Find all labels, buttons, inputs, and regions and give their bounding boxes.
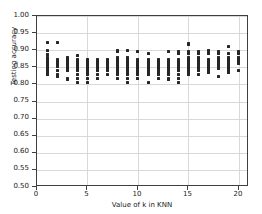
data-point [187, 73, 190, 76]
data-point [147, 81, 150, 84]
data-point [76, 81, 79, 84]
data-point [177, 81, 180, 84]
gridline-horizontal [37, 119, 247, 120]
x-tick-label: 20 [233, 191, 242, 198]
data-point [147, 52, 150, 55]
gridline-horizontal [37, 102, 247, 103]
y-tick-mark [32, 169, 36, 170]
y-tick-label: 0.60 [13, 148, 29, 155]
data-point [136, 50, 139, 53]
data-point [227, 71, 230, 74]
y-tick-mark [32, 83, 36, 84]
data-point [46, 73, 49, 76]
data-point [237, 52, 240, 55]
data-point [197, 52, 200, 55]
gridline-horizontal [37, 33, 247, 34]
data-point [86, 77, 89, 80]
plot-area [36, 15, 248, 186]
data-point [96, 73, 99, 76]
y-tick-mark [32, 15, 36, 16]
gridline-vertical [87, 16, 88, 185]
y-tick-label: 0.50 [13, 183, 29, 190]
data-point [76, 54, 79, 57]
data-point [96, 69, 99, 72]
data-point [56, 69, 59, 72]
y-tick-mark [32, 152, 36, 153]
y-axis-label: Testing accuracy [10, 6, 18, 106]
data-point [177, 73, 180, 76]
data-point [157, 77, 160, 80]
data-point [147, 73, 150, 76]
y-tick-mark [32, 118, 36, 119]
data-point [217, 67, 220, 70]
y-tick-label: 0.55 [13, 165, 29, 172]
data-point [187, 43, 190, 46]
x-tick-label: 15 [183, 191, 192, 198]
data-point [167, 78, 170, 81]
data-point [217, 75, 220, 78]
gridline-horizontal [37, 170, 247, 171]
data-point [116, 73, 119, 76]
data-point [76, 73, 79, 76]
data-point [227, 45, 230, 48]
data-point [66, 69, 69, 72]
data-point [157, 73, 160, 76]
data-point [46, 41, 49, 44]
gridline-vertical [239, 16, 240, 185]
data-point [197, 69, 200, 72]
x-axis-label: Value of k in KNN [36, 201, 248, 209]
data-point [46, 49, 49, 52]
data-point [126, 49, 129, 52]
gridline-horizontal [37, 136, 247, 137]
data-point [86, 73, 89, 76]
data-point [207, 71, 210, 74]
data-point [177, 77, 180, 80]
x-tick-label: 5 [84, 191, 88, 198]
x-tick-label: 0 [34, 191, 38, 198]
data-point [177, 69, 180, 72]
data-point [56, 75, 59, 78]
data-point [167, 73, 170, 76]
scatter-plot-figure: 0.500.550.600.650.700.750.800.850.900.95… [0, 0, 262, 214]
data-point [56, 65, 59, 68]
gridline-horizontal [37, 84, 247, 85]
data-point [56, 41, 59, 44]
data-point [227, 52, 230, 55]
y-tick-mark [32, 66, 36, 67]
data-point [126, 81, 129, 84]
gridline-vertical [138, 16, 139, 185]
data-point [136, 73, 139, 76]
data-point [86, 81, 89, 84]
data-point [96, 77, 99, 80]
data-point [167, 50, 170, 53]
data-point [126, 73, 129, 76]
y-tick-label: 0.65 [13, 131, 29, 138]
data-point [207, 52, 210, 55]
data-point [237, 69, 240, 72]
data-point [237, 62, 240, 65]
y-tick-mark [32, 49, 36, 50]
data-point [106, 73, 109, 76]
data-point [76, 77, 79, 80]
gridline-horizontal [37, 50, 247, 51]
data-point [116, 50, 119, 53]
gridline-horizontal [37, 16, 247, 17]
y-tick-label: 0.70 [13, 114, 29, 121]
data-point [66, 78, 69, 81]
y-tick-mark [32, 135, 36, 136]
data-point [177, 52, 180, 55]
gridline-horizontal [37, 153, 247, 154]
data-point [126, 77, 129, 80]
data-point [187, 52, 190, 55]
data-point [106, 69, 109, 72]
x-tick-label: 10 [132, 191, 141, 198]
data-point [217, 52, 220, 55]
data-point [136, 77, 139, 80]
data-point [116, 77, 119, 80]
y-tick-mark [32, 32, 36, 33]
data-point [197, 73, 200, 76]
y-tick-mark [32, 101, 36, 102]
data-point [76, 69, 79, 72]
